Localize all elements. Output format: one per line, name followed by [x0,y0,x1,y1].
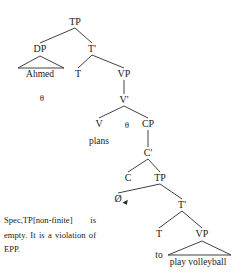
tree-node-play-vb: play volleyball [170,257,227,267]
tree-edge [148,159,160,172]
tree-edge [128,159,148,172]
tree-node-v-head: V [95,119,102,129]
tree-node-cbar: C' [144,148,152,158]
phrase-triangle [18,56,64,68]
tree-node-t-lower: T [156,229,162,239]
tree-edge [182,211,202,228]
tree-node-plans: plans [89,136,109,146]
tree-node-tp-lower: TP [154,173,166,183]
tree-node-tbar-lower: T' [178,200,186,210]
tree-edge [159,211,182,228]
tree-edge [99,106,124,118]
phrase-triangle [168,241,231,255]
figure-caption: Spec,TP[non-finite] is empty. It is a vi… [4,213,96,257]
tree-node-vbar: V' [119,95,128,105]
tree-node-vp: VP [118,69,131,79]
tree-node-theta-1: θ [40,93,44,103]
tree-edge [118,184,160,193]
tree-edge [40,28,75,43]
tree-node-vp-lower: VP [196,229,209,239]
tree-edge [75,28,92,43]
tree-node-ahmed: Ahmed [26,69,54,79]
tree-edge [78,55,92,68]
tree-node-null-c: Ø [114,194,121,204]
tree-node-tp-root: TP [69,17,81,27]
tree-node-theta-2: θ [125,120,129,130]
tree-node-dp: DP [34,44,47,54]
tree-node-t-head: T [75,69,81,79]
tree-node-to: to [155,250,162,260]
tree-node-cp: CP [142,119,154,129]
syntax-tree-figure: TPDPT'AhmedTVPθV'VθCPplansC'CTPØT'TVPtop… [0,0,235,277]
tree-node-tbar: T' [88,44,96,54]
tree-edge [124,106,148,118]
tree-node-c-head: C [125,173,132,183]
tree-edge [160,184,182,199]
tree-edge [92,55,124,68]
